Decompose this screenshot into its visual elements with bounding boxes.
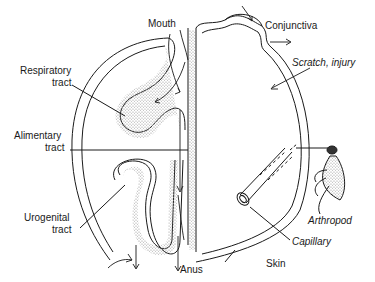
label-scratch-injury: Scratch, injury [292,57,355,68]
label-urogenital-line1: Urogenital [24,212,70,223]
left-body-inner [82,46,165,252]
capillary-tube [235,144,297,208]
label-capillary: Capillary [292,236,331,247]
left-body-outer [72,38,168,260]
label-alimentary-line2: tract [45,142,64,153]
label-respiratory-line2: tract [52,77,71,88]
label-arthropod: Arthropod [308,215,352,226]
skin-inner [202,24,301,254]
label-skin: Skin [266,258,285,269]
conjunctiva-surface [225,14,262,26]
arthropod [315,146,345,214]
label-anus: Anus [180,264,203,275]
label-mouth: Mouth [148,18,176,29]
label-alimentary-line1: Alimentary [14,130,61,141]
urogenital-tract [118,160,175,249]
skin-outer [196,16,309,262]
label-conjunctiva: Conjunctiva [265,20,317,31]
label-respiratory-line1: Respiratory [20,65,71,76]
label-urogenital-line2: tract [52,224,71,235]
